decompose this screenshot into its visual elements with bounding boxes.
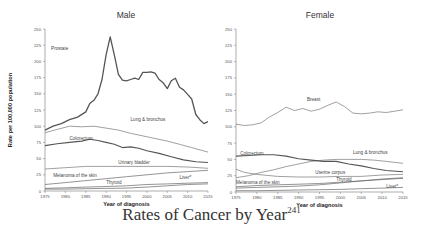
y-tick-label: 100	[34, 124, 42, 129]
panel-title: Female	[306, 10, 335, 20]
y-axis-label: Rate per 100,000 population	[7, 72, 13, 147]
x-tick-label: 2015	[398, 195, 408, 200]
y-tick-label: 125	[225, 108, 233, 113]
x-tick-label: 1985	[273, 195, 283, 200]
y-tick-label: 100	[225, 124, 233, 129]
x-tick-label: 1980	[252, 195, 262, 200]
y-tick-label: 150	[225, 92, 233, 97]
y-tick-label: 225	[34, 43, 42, 48]
x-tick-label: 2005	[357, 195, 367, 200]
x-tick-label: 1980	[61, 194, 71, 199]
cancer-rates-chart: Male025507510012515017520022525019751980…	[0, 0, 423, 239]
y-tick-label: 200	[225, 59, 233, 64]
y-tick-label: 225	[225, 43, 233, 48]
y-tick-label: 25	[227, 173, 232, 178]
series-label: Lung & bronchus	[353, 150, 388, 155]
x-tick-label: 1990	[101, 194, 111, 199]
x-tick-label: 1985	[81, 194, 91, 199]
y-tick-label: 0	[230, 190, 233, 195]
x-tick-label: 1975	[231, 195, 241, 200]
y-tick-label: 75	[36, 140, 41, 145]
series-label: Liver*	[179, 175, 191, 180]
series-line	[45, 166, 208, 169]
x-tick-label: 2000	[142, 194, 152, 199]
y-tick-label: 50	[36, 156, 41, 161]
series-label: Lung & bronchus	[131, 117, 166, 122]
y-tick-label: 0	[39, 189, 42, 194]
x-tick-label: 1995	[122, 194, 132, 199]
x-tick-label: 2005	[163, 194, 173, 199]
series-label: Colorectum	[240, 151, 264, 156]
series-label: Prostate	[51, 46, 69, 51]
series-line	[45, 184, 208, 189]
series-label: Melanoma of the skin	[236, 180, 280, 185]
series-label: Liver*	[386, 184, 398, 189]
y-tick-label: 175	[34, 75, 42, 80]
series-label: Breast	[307, 97, 321, 102]
series-label: Uterine corpus	[315, 170, 346, 175]
y-tick-label: 75	[227, 141, 232, 146]
y-tick-label: 150	[34, 91, 42, 96]
male-panel: Male025507510012515017520022525019751980…	[7, 10, 213, 207]
y-tick-label: 25	[36, 172, 41, 177]
x-tick-label: 1975	[40, 194, 50, 199]
x-tick-label: 2000	[336, 195, 346, 200]
series-label: Thyroid	[336, 177, 352, 182]
x-tick-label: 2015	[203, 194, 213, 199]
y-tick-label: 125	[34, 108, 42, 113]
panel-title: Male	[117, 10, 136, 20]
y-tick-label: 200	[34, 59, 42, 64]
series-line	[236, 102, 403, 126]
series-label: Melanoma of the skin	[53, 173, 97, 178]
series-label: Urinary bladder	[118, 160, 150, 165]
y-tick-label: 50	[227, 157, 232, 162]
y-tick-label: 250	[34, 27, 42, 32]
x-tick-label: 1990	[294, 195, 304, 200]
x-tick-label: 1995	[315, 195, 325, 200]
caption-superscript: 241	[287, 205, 301, 215]
figure-caption: Rates of Cancer by Year241	[0, 205, 423, 225]
x-tick-label: 2010	[377, 195, 387, 200]
female-panel: Female0255075100125150175200225250197519…	[225, 10, 408, 208]
series-line	[236, 187, 403, 190]
series-label: Colorectum	[69, 136, 93, 141]
series-line	[45, 37, 208, 130]
x-tick-label: 2010	[183, 194, 193, 199]
series-line	[45, 183, 208, 189]
series-label: Thyroid	[106, 180, 122, 185]
caption-text: Rates of Cancer by Year	[122, 205, 287, 224]
y-tick-label: 175	[225, 75, 233, 80]
y-tick-label: 250	[225, 27, 233, 32]
